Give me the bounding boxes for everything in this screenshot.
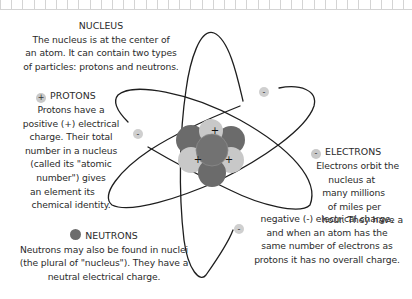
nucleus-cluster: + + + — [176, 119, 245, 187]
neutron-icon — [70, 229, 81, 240]
electron-icon: - — [311, 149, 321, 159]
proton-plus-sign: + — [211, 125, 219, 136]
proton-plus-sign: + — [194, 154, 202, 165]
nucleus-description: NUCLEUS The nucleus is at the center of … — [22, 19, 180, 73]
protons-heading-label: PROTONS — [50, 90, 96, 101]
nucleus-line: an atom. It can contain two types — [22, 46, 180, 60]
protons-line: an element its — [16, 185, 126, 199]
nucleus-line: The nucleus is at the center of — [22, 33, 180, 47]
electrons-line: negative (-) electrical charge, — [244, 212, 410, 226]
proton-plus-sign: + — [225, 154, 233, 165]
protons-heading: +PROTONS — [16, 89, 126, 103]
protons-line: charge. Their total — [16, 130, 126, 144]
neutrons-line: neutral electrical charge. — [14, 270, 194, 284]
protons-description: +PROTONS Protons have a positive (+) ele… — [16, 89, 126, 212]
electrons-heading-label: ELECTRONS — [325, 146, 381, 157]
nucleus-heading: NUCLEUS — [22, 19, 180, 33]
svg-text:-: - — [137, 130, 140, 139]
protons-line: positive (+) electrical — [16, 117, 126, 131]
protons-line: (called its "atomic — [16, 157, 126, 171]
nucleus-line: of particles: protons and neutrons. — [22, 60, 180, 74]
electrons-line: Electrons orbit the — [255, 159, 407, 173]
svg-text:-: - — [238, 225, 241, 234]
neutrons-heading: NEUTRONS — [14, 229, 194, 243]
proton-icon: + — [36, 93, 46, 103]
electrons-line: many millions — [255, 186, 407, 200]
neutrons-line: Neutrons may also be found in nuclei — [14, 243, 194, 257]
neutrons-heading-label: NEUTRONS — [85, 230, 137, 241]
protons-line: chemical identity. — [16, 198, 126, 212]
electrons-description-continued: negative (-) electrical charge, and when… — [244, 212, 410, 266]
electrons-heading: -ELECTRONS — [255, 145, 407, 159]
protons-line: Protons have a — [16, 103, 126, 117]
electrons-line: nucleus at — [255, 173, 407, 187]
protons-line: number") gives — [16, 171, 126, 185]
electrons-line: and when an atom has the — [244, 226, 410, 240]
electrons-line: same number of electrons as — [244, 239, 410, 253]
neutrons-line: (the plural of "nucleus"). They have a — [14, 256, 194, 270]
protons-line: number in a nucleus — [16, 144, 126, 158]
svg-text:-: - — [263, 88, 266, 97]
neutrons-description: NEUTRONS Neutrons may also be found in n… — [14, 229, 194, 283]
electrons-line: protons it has no overall charge. — [244, 253, 410, 267]
